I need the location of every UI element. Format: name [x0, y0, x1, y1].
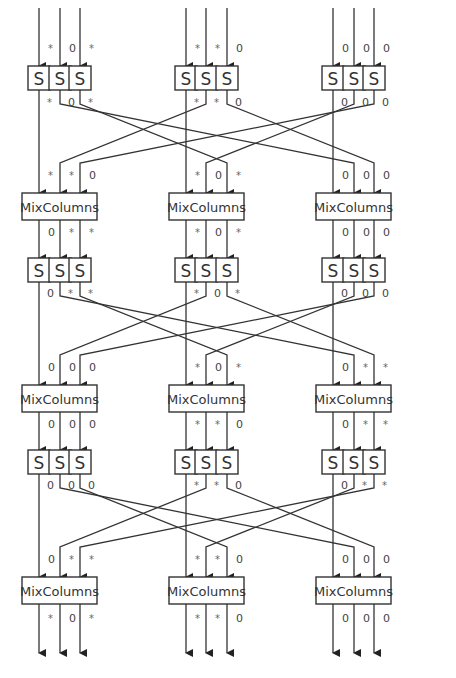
state-label: * — [48, 170, 53, 181]
state-label: 0 — [341, 96, 348, 109]
sbox-label: S — [222, 453, 233, 473]
state-label: * — [195, 613, 200, 624]
cipher-diagram: SSSSSSSSSSSSSSSSSSSSSSSSSSSMixColumnsMix… — [0, 0, 456, 678]
state-label: * — [89, 554, 94, 565]
state-label: * — [194, 480, 199, 491]
state-label: 0 — [48, 226, 55, 239]
mixcolumns-label: MixColumns — [20, 584, 99, 599]
shift-wire — [60, 474, 354, 577]
state-label: * — [69, 554, 74, 565]
state-label: * — [69, 170, 74, 181]
state-label: 0 — [363, 612, 370, 625]
state-label: * — [68, 288, 73, 299]
state-label: * — [215, 43, 220, 54]
state-label: 0 — [89, 361, 96, 374]
state-label: 0 — [47, 479, 54, 492]
shift-wire — [206, 474, 354, 577]
state-label: * — [89, 43, 94, 54]
sbox-label: S — [222, 261, 233, 281]
state-label: * — [382, 480, 387, 491]
state-label: 0 — [89, 418, 96, 431]
state-label: * — [194, 288, 199, 299]
mixcolumns-label: MixColumns — [314, 200, 393, 215]
state-label: 0 — [68, 479, 75, 492]
shift-wire — [60, 90, 354, 193]
state-label: * — [194, 97, 199, 108]
sbox-label: S — [328, 69, 339, 89]
state-label: * — [215, 419, 220, 430]
state-label: * — [89, 613, 94, 624]
state-label: 0 — [236, 42, 243, 55]
state-label: 0 — [215, 361, 222, 374]
sbox-label: S — [349, 261, 360, 281]
state-label: 0 — [236, 612, 243, 625]
state-label: 0 — [214, 287, 221, 300]
sbox-label: S — [181, 261, 192, 281]
state-label: * — [236, 170, 241, 181]
sbox-label: S — [34, 261, 45, 281]
state-label: 0 — [363, 169, 370, 182]
state-label: 0 — [48, 553, 55, 566]
shift-wire — [206, 90, 354, 193]
state-label: 0 — [342, 553, 349, 566]
state-label: 0 — [383, 226, 390, 239]
state-label: 0 — [383, 553, 390, 566]
state-label: 0 — [363, 226, 370, 239]
state-label: * — [195, 227, 200, 238]
shift-wire — [206, 282, 354, 385]
mixcolumns-label: MixColumns — [167, 392, 246, 407]
state-label: * — [88, 288, 93, 299]
state-label: 0 — [342, 42, 349, 55]
sbox-label: S — [328, 261, 339, 281]
state-label: * — [215, 613, 220, 624]
state-label: * — [195, 43, 200, 54]
sbox-label: S — [75, 453, 86, 473]
shift-wire — [80, 282, 227, 385]
state-label: 0 — [342, 418, 349, 431]
state-label: 0 — [383, 42, 390, 55]
sbox-label: S — [55, 453, 66, 473]
state-label: 0 — [342, 226, 349, 239]
state-label: * — [236, 362, 241, 373]
state-label: 0 — [341, 287, 348, 300]
shift-wire — [80, 474, 227, 577]
state-label: 0 — [69, 612, 76, 625]
sbox-label: S — [55, 261, 66, 281]
sbox-label: S — [349, 453, 360, 473]
sbox-label: S — [34, 453, 45, 473]
state-label: * — [363, 362, 368, 373]
state-label: 0 — [235, 479, 242, 492]
state-label: 0 — [69, 361, 76, 374]
state-label: 0 — [362, 287, 369, 300]
state-label: * — [235, 288, 240, 299]
sbox-label: S — [75, 69, 86, 89]
state-label: 0 — [69, 418, 76, 431]
state-label: 0 — [383, 612, 390, 625]
state-label: * — [215, 554, 220, 565]
sbox-label: S — [201, 69, 212, 89]
state-label: 0 — [236, 553, 243, 566]
state-label: * — [214, 480, 219, 491]
state-label: 0 — [382, 287, 389, 300]
sbox-label: S — [328, 453, 339, 473]
sbox-label: S — [369, 69, 380, 89]
state-label: * — [195, 170, 200, 181]
state-label: 0 — [68, 96, 75, 109]
sbox-label: S — [369, 453, 380, 473]
labels: *0***0000**000000*0***000*0*0**000******… — [47, 42, 390, 625]
state-label: 0 — [215, 226, 222, 239]
state-label: * — [214, 97, 219, 108]
state-label: 0 — [235, 96, 242, 109]
state-label: * — [195, 362, 200, 373]
sbox-label: S — [75, 261, 86, 281]
sbox-label: S — [34, 69, 45, 89]
mixcolumns-label: MixColumns — [167, 200, 246, 215]
state-label: 0 — [236, 418, 243, 431]
state-label: 0 — [342, 169, 349, 182]
state-label: 0 — [215, 169, 222, 182]
state-label: * — [383, 362, 388, 373]
sbox-label: S — [369, 261, 380, 281]
state-label: * — [236, 227, 241, 238]
shift-wire — [80, 90, 227, 193]
state-label: 0 — [342, 361, 349, 374]
